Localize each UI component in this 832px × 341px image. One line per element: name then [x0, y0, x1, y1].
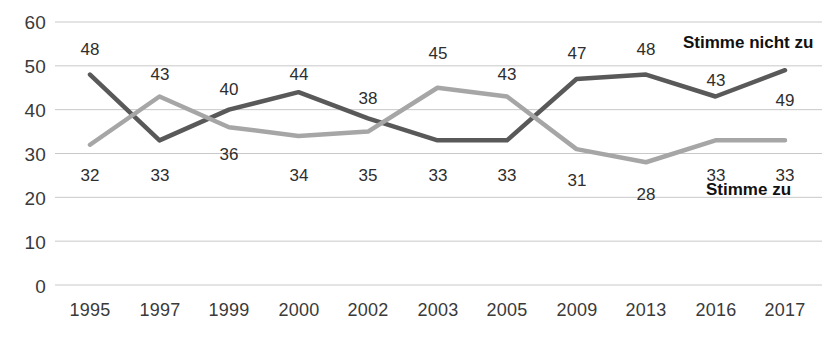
data-label-lower-1997: 33 — [137, 167, 183, 184]
data-label-upper-1997: 43 — [137, 66, 183, 83]
y-axis-tick-0: 0 — [0, 277, 46, 296]
data-label-lower-2002: 35 — [345, 167, 391, 184]
x-axis-tick-2005: 2005 — [472, 301, 542, 319]
data-label-upper-2017: 49 — [762, 92, 808, 109]
x-axis-tick-2002: 2002 — [333, 301, 403, 319]
legend-label-stimme-zu: Stimme zu — [706, 181, 791, 198]
x-axis-tick-1999: 1999 — [194, 301, 264, 319]
data-label-lower-2003: 33 — [415, 167, 461, 184]
x-axis-tick-1995: 1995 — [55, 301, 125, 319]
y-axis-tick-40: 40 — [0, 101, 46, 120]
y-axis-tick-20: 20 — [0, 189, 46, 208]
y-axis-tick-50: 50 — [0, 57, 46, 76]
data-label-upper-1999: 40 — [206, 81, 252, 98]
data-label-lower-2013: 28 — [623, 186, 669, 203]
y-axis-tick-30: 30 — [0, 145, 46, 164]
data-label-upper-2009: 47 — [554, 45, 600, 62]
legend-label-stimme-nicht-zu: Stimme nicht zu — [683, 34, 813, 51]
data-label-lower-1995: 32 — [67, 167, 113, 184]
line-chart: 60 50 40 30 20 10 0 1995 1997 1999 2000 … — [0, 0, 832, 341]
data-label-upper-2016: 43 — [693, 72, 739, 89]
x-axis-tick-2013: 2013 — [611, 301, 681, 319]
x-axis-tick-2003: 2003 — [403, 301, 473, 319]
data-label-upper-2013: 48 — [623, 41, 669, 58]
data-label-upper-2002: 38 — [345, 90, 391, 107]
x-axis-tick-2000: 2000 — [264, 301, 334, 319]
data-label-upper-2003: 45 — [415, 45, 461, 62]
y-axis-tick-60: 60 — [0, 13, 46, 32]
data-label-upper-1995: 48 — [67, 41, 113, 58]
series-line-0 — [90, 70, 785, 140]
x-axis-tick-2017: 2017 — [750, 301, 820, 319]
x-axis-tick-1997: 1997 — [125, 301, 195, 319]
x-axis-tick-2016: 2016 — [681, 301, 751, 319]
data-label-lower-2000: 34 — [276, 167, 322, 184]
data-label-lower-2005: 33 — [484, 167, 530, 184]
data-label-upper-2005: 43 — [484, 66, 530, 83]
y-axis-tick-10: 10 — [0, 233, 46, 252]
data-label-lower-1999: 36 — [206, 146, 252, 163]
data-label-upper-2000: 44 — [276, 66, 322, 83]
data-label-lower-2009: 31 — [554, 172, 600, 189]
x-axis-tick-2009: 2009 — [542, 301, 612, 319]
series-lines — [90, 70, 785, 162]
